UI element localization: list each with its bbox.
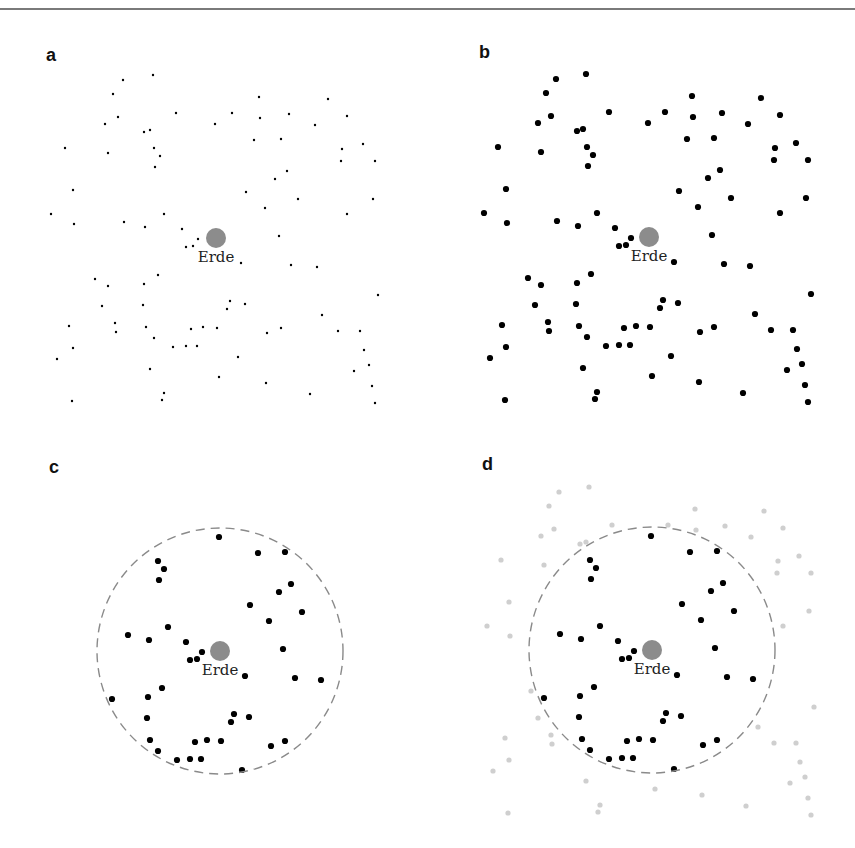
faded-star-dot: [541, 562, 546, 567]
star-dot: [499, 322, 505, 328]
star-dot: [50, 213, 52, 215]
faded-star-dot: [693, 527, 698, 532]
star-dot: [679, 601, 685, 607]
star-dot: [292, 675, 298, 681]
star-dot: [502, 397, 508, 403]
star-dot: [362, 143, 364, 145]
star-dot: [503, 186, 509, 192]
star-dot: [198, 756, 204, 762]
star-dot: [758, 95, 764, 101]
star-dot: [185, 345, 187, 347]
star-dot: [747, 263, 753, 269]
star-dot: [606, 109, 612, 115]
star-dot: [259, 117, 261, 119]
star-dot: [594, 389, 600, 395]
star-dot: [728, 195, 734, 201]
star-field-svg: ErdeErdeErdeErde: [0, 0, 855, 848]
star-dot: [152, 74, 154, 76]
star-dot: [623, 242, 629, 248]
star-dot: [321, 314, 323, 316]
star-dot: [647, 324, 653, 330]
faded-star-dot: [787, 780, 792, 785]
faded-star-dot: [583, 539, 588, 544]
star-dot: [237, 356, 239, 358]
faded-star-dot: [722, 523, 727, 528]
star-dot: [145, 326, 147, 328]
star-dot: [627, 342, 633, 348]
star-dot: [228, 719, 234, 725]
star-dot: [245, 191, 247, 193]
star-dot: [619, 755, 625, 761]
faded-star-dot: [506, 757, 511, 762]
star-dot: [587, 557, 593, 563]
star-dot: [264, 207, 266, 209]
faded-star-dot: [586, 484, 591, 489]
star-dot: [772, 145, 778, 151]
star-dot: [253, 139, 255, 141]
star-dot: [794, 346, 800, 352]
star-dot: [149, 129, 151, 131]
star-dot: [159, 155, 161, 157]
star-dot: [802, 382, 808, 388]
star-dot: [525, 275, 531, 281]
faded-star-dot: [577, 541, 582, 546]
star-dot: [165, 624, 171, 630]
star-dot: [805, 157, 811, 163]
star-dot: [204, 737, 210, 743]
star-dot: [153, 337, 155, 339]
star-dot: [548, 113, 554, 119]
faded-star-dot: [597, 802, 602, 807]
star-dot: [154, 166, 156, 168]
panel-label-c: c: [49, 457, 59, 478]
star-dot: [226, 308, 228, 310]
star-dot: [645, 120, 651, 126]
star-dot: [750, 676, 756, 682]
star-dot: [246, 714, 252, 720]
faded-star-dot: [780, 525, 785, 530]
faded-star-dot: [775, 558, 780, 563]
star-dot: [145, 694, 151, 700]
star-dot: [368, 364, 370, 366]
star-dot: [363, 349, 365, 351]
star-dot: [297, 198, 299, 200]
star-dot: [244, 303, 246, 305]
star-dot: [573, 301, 579, 307]
star-dot: [374, 402, 376, 404]
faded-star-dot: [546, 503, 551, 508]
faded-star-dot: [755, 724, 760, 729]
star-dot: [276, 589, 282, 595]
star-dot: [648, 533, 654, 539]
star-dot: [790, 327, 796, 333]
star-dot: [662, 109, 668, 115]
faded-star-dot: [761, 508, 766, 513]
earth-label: Erde: [634, 660, 671, 678]
star-dot: [503, 344, 509, 350]
star-dot: [574, 128, 580, 134]
star-dot: [546, 328, 552, 334]
star-dot: [768, 327, 774, 333]
faded-star-dot: [780, 623, 785, 628]
star-dot: [125, 632, 131, 638]
star-dot: [636, 736, 642, 742]
star-dot: [278, 235, 280, 237]
star-dot: [143, 131, 145, 133]
star-dot: [615, 638, 621, 644]
star-dot: [147, 737, 153, 743]
star-dot: [112, 93, 114, 95]
star-dot: [196, 345, 198, 347]
star-dot: [740, 390, 746, 396]
star-dot: [803, 195, 809, 201]
star-dot: [805, 399, 811, 405]
faded-star-dot: [556, 489, 561, 494]
faded-star-dot: [505, 810, 510, 815]
panel-label-b: b: [479, 42, 490, 63]
star-dot: [218, 376, 220, 378]
star-dot: [731, 608, 737, 614]
faded-star-dot: [609, 522, 614, 527]
star-dot: [576, 714, 582, 720]
star-dot: [109, 696, 115, 702]
star-dot: [612, 225, 618, 231]
star-dot: [777, 210, 783, 216]
star-dot: [107, 285, 109, 287]
star-dot: [199, 649, 205, 655]
